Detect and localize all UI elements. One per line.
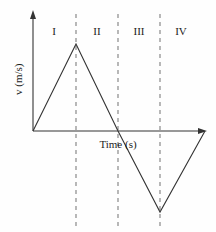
region-label-iv: IV bbox=[175, 25, 187, 37]
x-axis bbox=[33, 128, 207, 134]
chart-canvas: v (m/s) Time (s) I II III IV bbox=[0, 0, 216, 232]
region-label-i: I bbox=[52, 25, 56, 37]
region-label-ii: II bbox=[93, 25, 101, 37]
y-axis bbox=[30, 10, 36, 131]
region-label-iii: III bbox=[134, 25, 145, 37]
region-divider-lines bbox=[76, 14, 160, 228]
y-axis-label: v (m/s) bbox=[12, 63, 25, 95]
velocity-time-graph-figure: v (m/s) Time (s) I II III IV bbox=[0, 0, 216, 232]
x-axis-label: Time (s) bbox=[99, 138, 137, 151]
velocity-curve bbox=[33, 44, 205, 212]
